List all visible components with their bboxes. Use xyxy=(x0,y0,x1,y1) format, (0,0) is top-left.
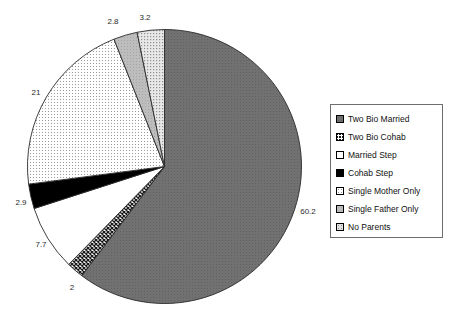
pie-slice-value-label: 7.7 xyxy=(35,240,47,249)
legend-swatch-cohab-step xyxy=(336,169,344,177)
legend-item[interactable]: Cohab Step xyxy=(336,164,438,182)
legend-label: No Parents xyxy=(348,223,391,232)
legend-label: Married Step xyxy=(348,151,397,160)
legend-item[interactable]: Two Bio Married xyxy=(336,110,438,128)
legend-label: Two Bio Married xyxy=(348,115,409,124)
pie-slice-value-label: 2.9 xyxy=(15,198,27,207)
legend-item[interactable]: Two Bio Cohab xyxy=(336,128,438,146)
pie-slice-value-label: 2.8 xyxy=(107,17,119,26)
legend-item[interactable]: No Parents xyxy=(336,218,438,236)
legend-swatch-single-mother-only xyxy=(336,187,344,195)
legend-label: Single Father Only xyxy=(348,205,418,214)
legend-item[interactable]: Single Father Only xyxy=(336,200,438,218)
legend-item[interactable]: Married Step xyxy=(336,146,438,164)
legend-swatch-two-bio-cohab xyxy=(336,133,344,141)
pie-slice-value-label: 21 xyxy=(32,88,41,97)
legend-swatch-married-step xyxy=(336,151,344,159)
chart-legend: Two Bio Married Two Bio Cohab Married St… xyxy=(330,104,443,238)
legend-label: Two Bio Cohab xyxy=(348,133,406,142)
pie-slice-value-label: 3.2 xyxy=(139,13,151,22)
legend-swatch-two-bio-married xyxy=(336,115,344,123)
pie-chart-figure: 60.227.72.9212.83.2 Two Bio Married Two … xyxy=(0,0,455,319)
pie-slice-value-label: 2 xyxy=(70,283,75,292)
legend-label: Cohab Step xyxy=(348,169,393,178)
legend-swatch-single-father-only xyxy=(336,205,344,213)
legend-item[interactable]: Single Mother Only xyxy=(336,182,438,200)
pie-slice-value-label: 60.2 xyxy=(300,207,316,216)
legend-label: Single Mother Only xyxy=(348,187,420,196)
pie-slices-group xyxy=(28,29,302,303)
legend-swatch-no-parents xyxy=(336,223,344,231)
